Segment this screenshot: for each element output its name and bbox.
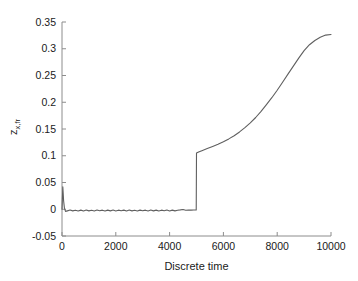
y-tick-label: 0.3 (41, 42, 56, 54)
x-tick-label: 2000 (104, 240, 128, 252)
y-tick-label: 0.1 (41, 149, 56, 161)
y-axis-tick-labels: -0.0500.050.10.150.20.250.30.35 (32, 16, 56, 242)
y-tick-label: 0.15 (36, 123, 57, 135)
y-axis-title: zx,fr (7, 119, 22, 135)
y-axis-title-subscript: x,fr (13, 119, 22, 130)
y-tick-label: 0 (50, 203, 56, 215)
x-tick-label: 8000 (266, 240, 290, 252)
chart-canvas: 0200040006000800010000 -0.0500.050.10.15… (0, 0, 358, 281)
x-tick-label: 6000 (212, 240, 236, 252)
y-tick-label: -0.05 (32, 230, 56, 242)
x-axis-ticks (62, 232, 331, 236)
y-tick-label: 0.2 (41, 96, 56, 108)
x-axis-title: Discrete time (164, 260, 228, 272)
y-tick-label: 0.05 (36, 176, 57, 188)
data-series-line (62, 35, 331, 212)
svg-text:zx,fr: zx,fr (7, 119, 22, 135)
x-tick-label: 10000 (316, 240, 345, 252)
x-axis-tick-labels: 0200040006000800010000 (59, 240, 346, 252)
x-tick-label: 0 (59, 240, 65, 252)
y-tick-label: 0.35 (36, 16, 57, 28)
y-tick-label: 0.25 (36, 69, 57, 81)
figure-container: 0200040006000800010000 -0.0500.050.10.15… (0, 0, 358, 281)
x-tick-label: 4000 (158, 240, 182, 252)
